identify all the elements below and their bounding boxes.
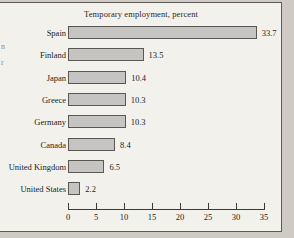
category-label: Canada bbox=[0, 137, 66, 153]
bar-value-label: 10.3 bbox=[131, 114, 146, 130]
category-label: United Kingdom bbox=[0, 159, 66, 175]
category-label: Germany bbox=[0, 114, 66, 130]
bar bbox=[68, 26, 257, 39]
bar bbox=[68, 160, 104, 173]
x-axis-tick bbox=[236, 203, 237, 210]
x-axis-line bbox=[68, 209, 264, 210]
bar-value-label: 2.2 bbox=[85, 181, 96, 197]
x-axis-tick-label: 0 bbox=[56, 212, 80, 222]
bar-row: Greece10.3 bbox=[0, 92, 282, 108]
bar-row: Finland13.5 bbox=[0, 47, 282, 63]
x-axis-tick bbox=[96, 203, 97, 210]
bar bbox=[68, 71, 126, 84]
x-axis-tick bbox=[124, 203, 125, 210]
bar-value-label: 10.4 bbox=[131, 70, 146, 86]
bar bbox=[68, 93, 126, 106]
x-axis-tick-label: 30 bbox=[224, 212, 248, 222]
x-axis-tick bbox=[264, 203, 265, 210]
bar-row: Spain33.7 bbox=[0, 25, 282, 41]
figure-panel: n r Temporary employment, percent Spain3… bbox=[0, 2, 282, 232]
bar-value-label: 10.3 bbox=[131, 92, 146, 108]
bar-value-label: 6.5 bbox=[109, 159, 120, 175]
x-axis-tick-label: 25 bbox=[196, 212, 220, 222]
x-axis-tick-label: 10 bbox=[112, 212, 136, 222]
x-axis-tick-label: 35 bbox=[252, 212, 276, 222]
bar-row: United States2.2 bbox=[0, 181, 282, 197]
page-margin bbox=[283, 0, 294, 238]
category-label: Spain bbox=[0, 25, 66, 41]
bar bbox=[68, 48, 144, 61]
x-axis-tick bbox=[180, 203, 181, 210]
bar-value-label: 33.7 bbox=[262, 25, 277, 41]
x-axis-tick-label: 5 bbox=[84, 212, 108, 222]
x-axis-tick bbox=[152, 203, 153, 210]
bar-row: Germany10.3 bbox=[0, 114, 282, 130]
bar-row: Canada8.4 bbox=[0, 137, 282, 153]
bar-row: Japan10.4 bbox=[0, 70, 282, 86]
x-axis-tick-label: 20 bbox=[168, 212, 192, 222]
bar-value-label: 8.4 bbox=[120, 137, 131, 153]
x-axis-tick-label: 15 bbox=[140, 212, 164, 222]
bar-row: United Kingdom6.5 bbox=[0, 159, 282, 175]
category-label: Greece bbox=[0, 92, 66, 108]
category-label: United States bbox=[0, 181, 66, 197]
bar bbox=[68, 138, 115, 151]
bar bbox=[68, 115, 126, 128]
category-label: Japan bbox=[0, 70, 66, 86]
bar-value-label: 13.5 bbox=[149, 47, 164, 63]
x-axis-tick bbox=[68, 203, 69, 210]
chart-title: Temporary employment, percent bbox=[0, 9, 282, 19]
x-axis-tick bbox=[208, 203, 209, 210]
bar-chart-plot: Spain33.7Finland13.5Japan10.4Greece10.3G… bbox=[0, 25, 282, 207]
x-axis: 05101520253035 bbox=[0, 203, 282, 233]
bar bbox=[68, 182, 80, 195]
category-label: Finland bbox=[0, 47, 66, 63]
